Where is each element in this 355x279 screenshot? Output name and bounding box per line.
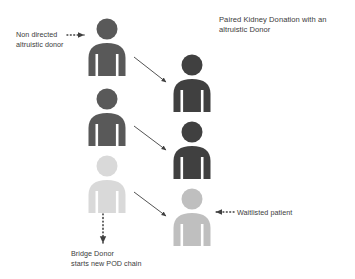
diagram-title: Paired Kidney Donation with an altruisti… xyxy=(219,15,351,36)
left-arm-gap xyxy=(181,224,184,246)
arrow-donation-2 xyxy=(134,126,166,150)
person-recipient-1 xyxy=(168,54,216,112)
label-waitlisted-patient: Waitlisted patient xyxy=(237,208,337,218)
arrow-donation-3 xyxy=(134,192,166,216)
head-icon xyxy=(97,19,118,40)
torso-icon xyxy=(89,113,126,146)
person-waitlisted-patient xyxy=(168,188,216,246)
torso-icon xyxy=(89,180,126,213)
right-arm-gap xyxy=(201,90,204,112)
person-altruistic-donor xyxy=(83,18,131,76)
kidney-donation-diagram: Paired Kidney Donation with an altruisti… xyxy=(0,0,355,279)
left-arm-gap xyxy=(96,191,99,213)
left-arm-gap xyxy=(181,157,184,179)
left-arm-gap xyxy=(181,90,184,112)
head-icon xyxy=(182,189,203,210)
torso-icon xyxy=(174,213,211,246)
person-paired-donor-1 xyxy=(83,88,131,146)
right-arm-gap xyxy=(116,54,119,76)
torso-icon xyxy=(89,43,126,76)
right-arm-gap xyxy=(116,124,119,146)
head-icon xyxy=(97,89,118,110)
torso-icon xyxy=(174,79,211,112)
head-icon xyxy=(182,55,203,76)
left-arm-gap xyxy=(96,54,99,76)
person-recipient-2 xyxy=(168,121,216,179)
head-icon xyxy=(97,156,118,177)
person-bridge-donor xyxy=(83,155,131,213)
head-icon xyxy=(182,122,203,143)
label-bridge-donor: Bridge Donor starts new POD chain xyxy=(71,249,181,268)
right-arm-gap xyxy=(201,157,204,179)
arrow-donation-1 xyxy=(134,57,166,82)
torso-icon xyxy=(174,146,211,179)
right-arm-gap xyxy=(116,191,119,213)
right-arm-gap xyxy=(201,224,204,246)
left-arm-gap xyxy=(96,124,99,146)
